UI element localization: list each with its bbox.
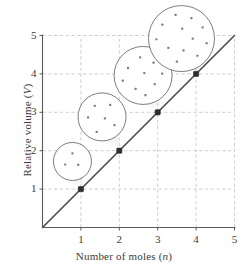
gas-particle-dot xyxy=(190,17,192,19)
x-axis-tick-label: 3 xyxy=(150,233,166,245)
gas-particle-dot xyxy=(96,131,98,133)
gas-particle-dot xyxy=(202,26,204,28)
gas-particle-dot xyxy=(181,28,183,30)
x-axis-title-prefix: Number of moles ( xyxy=(76,250,163,262)
data-point-marker xyxy=(78,187,83,192)
gas-particle-dot xyxy=(205,42,207,44)
gas-particle-dot xyxy=(94,105,96,107)
gas-particle-dot xyxy=(152,62,154,64)
gas-particle-dot xyxy=(155,38,157,40)
gas-particle-dot xyxy=(71,152,73,154)
gas-particle-dot xyxy=(167,47,169,49)
gas-particle-dot xyxy=(104,117,106,119)
gas-particle-dot xyxy=(134,88,136,90)
x-axis-title-suffix: ) xyxy=(168,250,172,262)
gas-particle-dot xyxy=(196,55,198,57)
gas-particle-dot xyxy=(64,163,66,165)
gas-particle-dot xyxy=(77,164,79,166)
gas-particle-dot xyxy=(143,72,145,74)
y-axis-title-variable: V xyxy=(21,87,33,94)
gas-particle-dot xyxy=(174,14,176,16)
y-axis-tick-label: 2 xyxy=(21,144,37,156)
gas-particle-dot xyxy=(154,83,156,85)
data-point-marker xyxy=(194,71,199,76)
bubble-outline xyxy=(78,93,126,141)
gas-particle-dot xyxy=(109,104,111,106)
gas-particle-dot xyxy=(127,67,129,69)
x-axis-tick-label: 4 xyxy=(188,233,204,245)
bubble-outline xyxy=(53,142,91,180)
avogadro-law-chart: Number of moles (n) Relative volume (V) … xyxy=(0,0,248,274)
gas-particle-dot xyxy=(192,37,194,39)
gas-particle-dot xyxy=(87,116,89,118)
y-axis-tick-label: 4 xyxy=(21,67,37,79)
gas-particle-dot xyxy=(113,124,115,126)
molecule-bubbles xyxy=(53,6,214,181)
molecule-bubble xyxy=(78,93,126,141)
x-axis-tick-label: 1 xyxy=(73,233,89,245)
x-axis-tick-label: 5 xyxy=(227,233,243,245)
x-axis-title: Number of moles (n) xyxy=(0,250,248,262)
x-axis-tick-label: 2 xyxy=(111,233,127,245)
y-axis-tick-label: 3 xyxy=(21,105,37,117)
gas-particle-dot xyxy=(161,73,163,75)
data-point-marker xyxy=(155,110,160,115)
gas-particle-dot xyxy=(139,56,141,58)
gas-particle-dot xyxy=(161,24,163,26)
gas-particle-dot xyxy=(122,80,124,82)
molecule-bubble xyxy=(149,6,215,72)
gas-particle-dot xyxy=(144,94,146,96)
molecule-bubble xyxy=(53,142,91,180)
data-point-marker xyxy=(117,148,122,153)
y-axis-tick-label: 5 xyxy=(21,29,37,41)
gas-particle-dot xyxy=(182,49,184,51)
y-axis-title-suffix: ) xyxy=(21,84,33,88)
y-axis-tick-label: 1 xyxy=(21,182,37,194)
gas-particle-dot xyxy=(176,61,178,63)
bubble-outline xyxy=(149,6,215,72)
